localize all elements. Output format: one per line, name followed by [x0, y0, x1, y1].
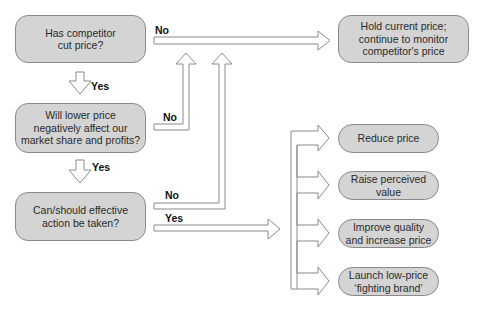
label-q2-yes: Yes — [92, 161, 110, 173]
label-q1-no: No — [155, 24, 169, 36]
action-raise-perceived-value: Raise perceived value — [338, 171, 439, 200]
arrow-q2-yes — [69, 160, 91, 183]
action-reduce-price: Reduce price — [338, 124, 439, 153]
decision-competitor-cut-price: Has competitor cut price? — [15, 15, 146, 63]
label-q3-no: No — [165, 189, 179, 201]
label-q3-yes: Yes — [165, 212, 183, 224]
decision-affect-share-profits: Will lower price negatively affect our m… — [15, 103, 146, 153]
outcome-hold-price: Hold current price; continue to monitor … — [338, 15, 469, 63]
arrow-q1-yes — [69, 72, 91, 94]
arrow-q1-no — [154, 31, 330, 50]
decision-effective-action: Can/should effective action be taken? — [15, 192, 146, 241]
action-improve-quality: Improve quality and increase price — [338, 219, 439, 248]
arrow-q3-no — [154, 53, 232, 209]
label-q1-yes: Yes — [91, 80, 109, 92]
action-launch-fighting-brand: Launch low-price ‘fighting brand’ — [338, 267, 439, 296]
label-q2-no: No — [163, 111, 177, 123]
